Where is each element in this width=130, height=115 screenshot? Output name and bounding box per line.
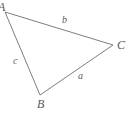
side-label-a: a bbox=[78, 71, 83, 81]
triangle-outline bbox=[5, 12, 113, 95]
vertex-label-a: A bbox=[0, 1, 5, 13]
triangle-figure: A B C a b c bbox=[0, 0, 130, 115]
side-label-c: c bbox=[13, 56, 17, 66]
side-label-b: b bbox=[62, 15, 67, 25]
vertex-label-b: B bbox=[37, 98, 44, 110]
vertex-label-c: C bbox=[117, 39, 125, 51]
